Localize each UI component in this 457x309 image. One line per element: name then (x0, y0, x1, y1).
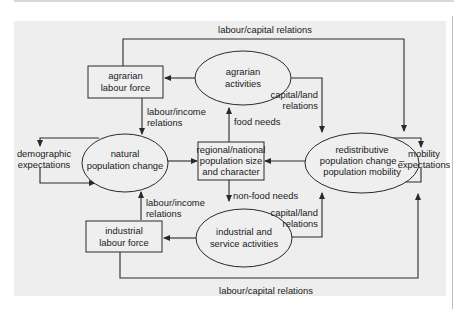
node-label: agrarian (226, 66, 260, 77)
node-label: natural (111, 148, 140, 159)
node-label: labour force (99, 237, 149, 248)
node-label: service activities (210, 238, 279, 249)
node-label: redistributive (335, 144, 388, 155)
node-label: expectations (18, 159, 71, 170)
label-lower-capital-land: capital/land (271, 207, 318, 218)
label-lower-labour-income: relations (146, 208, 182, 219)
label-non-food-needs: non-food needs (233, 190, 298, 201)
node-natural-population-change: natural population change (82, 134, 168, 192)
label-lower-labour-income: labour/income (146, 197, 205, 208)
node-label: population mobility (323, 166, 401, 177)
node-label: population size (200, 155, 263, 166)
node-regional-national-population: regional/national population size and ch… (197, 142, 266, 180)
node-label: industrial and (216, 226, 272, 237)
node-agrarian-labour-force: agrarian labour force (88, 66, 163, 98)
population-systems-diagram: agrarian labour force agrarian activitie… (0, 0, 457, 309)
node-label: labour force (101, 82, 151, 93)
label-food-needs: food needs (234, 116, 281, 127)
label-top-labour-capital: labour/capital relations (218, 24, 312, 35)
node-label: agrarian (108, 70, 142, 81)
node-label: demographic (17, 148, 72, 159)
node-label: activities (225, 78, 261, 89)
label-lower-capital-land: relations (283, 218, 319, 229)
node-demographic-expectations: demographic expectations (17, 148, 72, 170)
node-label: population change – (320, 155, 405, 166)
label-upper-capital-land: capital/land (271, 89, 318, 100)
node-label: industrial (105, 225, 143, 236)
label-upper-capital-land: relations (283, 100, 319, 111)
label-bottom-labour-capital: labour/capital relations (219, 285, 313, 296)
edge-natural-to-demographic (40, 138, 99, 146)
node-label: and character (202, 166, 259, 177)
label-upper-labour-income: labour/income (147, 106, 206, 117)
node-label: mobility (408, 148, 440, 159)
node-industrial-labour-force: industrial labour force (86, 221, 162, 252)
node-label: population change (87, 160, 164, 171)
label-upper-labour-income: relations (147, 117, 183, 128)
node-label: regional/national (197, 144, 266, 155)
node-label: expectations (398, 159, 451, 170)
